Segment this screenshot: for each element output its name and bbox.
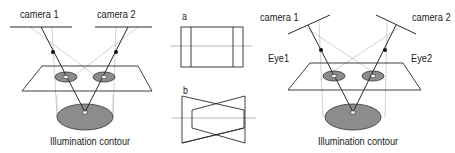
illumination-contour-label: Illumination contour	[50, 136, 130, 147]
eye2-label: Eye2	[411, 53, 432, 64]
figure: camera 1 camera 2 Illumination contour a…	[0, 0, 455, 153]
panel-b-label: b	[183, 86, 188, 96]
eye2-marker-right	[371, 75, 375, 78]
eye1-label: Eye1	[268, 53, 289, 64]
eye2-marker	[102, 76, 106, 79]
light-rays	[30, 27, 138, 117]
illumination-contour-ellipse	[57, 104, 113, 130]
contour-marker-right	[351, 111, 355, 114]
panel-a-rect	[181, 27, 243, 67]
diagram-svg	[0, 0, 455, 153]
left-diagram	[10, 27, 152, 130]
lens2-dot-right	[383, 48, 387, 52]
panel-a-label: a	[182, 12, 187, 22]
camera2-label-right: camera 2	[412, 12, 451, 23]
eye1-marker-right	[332, 75, 336, 78]
camera1-label: camera 1	[20, 9, 59, 20]
camera2-sensor-right	[376, 15, 416, 34]
light-rays-right	[305, 21, 400, 117]
eye1-marker	[64, 76, 68, 79]
lens1-dot-right	[319, 48, 323, 52]
contour-marker	[83, 111, 87, 114]
camera2-label: camera 2	[97, 9, 136, 20]
plane-right	[288, 63, 421, 90]
lens1-dot	[51, 50, 55, 54]
illumination-contour-label-right: Illumination contour	[318, 136, 398, 147]
camera1-label-right: camera 1	[260, 12, 299, 23]
lens2-dot	[114, 50, 118, 54]
panel-b-shapes	[182, 96, 245, 143]
right-diagram	[288, 15, 421, 130]
illumination-contour-ellipse-right	[325, 104, 381, 130]
